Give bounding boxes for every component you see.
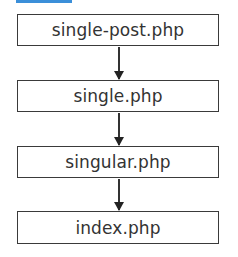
node-single: single.php xyxy=(17,80,219,112)
header-accent-tab xyxy=(16,0,72,3)
node-label: singular.php xyxy=(65,152,170,172)
node-single-post: single-post.php xyxy=(17,14,219,46)
arrow-down-icon xyxy=(118,47,120,79)
arrow-down-icon xyxy=(118,113,120,145)
node-label: single-post.php xyxy=(52,20,184,40)
node-label: single.php xyxy=(73,86,162,106)
node-index: index.php xyxy=(17,211,219,244)
node-singular: singular.php xyxy=(17,146,219,178)
node-label: index.php xyxy=(75,218,160,238)
arrow-down-icon xyxy=(118,179,120,210)
